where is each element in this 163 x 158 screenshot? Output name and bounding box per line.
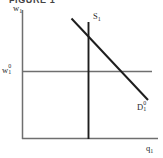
supply-demand-diagram [0,0,163,158]
demand-curve-line [72,19,149,101]
x-axis-label: q1 [146,144,153,153]
figure-container: FIGURE 1 w1 w01 S1 D01 q1 [0,0,163,158]
supply-curve-label: S1 [93,12,101,21]
demand-curve-label: D01 [137,101,147,111]
y-axis-label: w1 [13,4,22,13]
wage-level-label: w01 [2,64,12,74]
